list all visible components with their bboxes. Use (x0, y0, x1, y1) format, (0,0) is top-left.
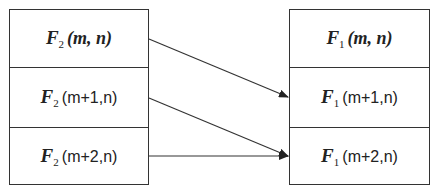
arrow-f2m1n-to-f1m2n (149, 98, 288, 156)
arrows-layer (0, 0, 439, 195)
arrow-f2mn-to-f1m1n (149, 39, 288, 97)
